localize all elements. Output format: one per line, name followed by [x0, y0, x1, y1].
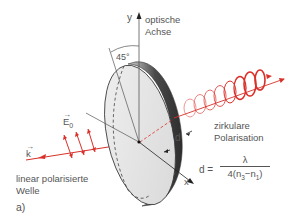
panel-label: a) — [16, 202, 25, 213]
input-label-line1: linear polarisierte — [16, 173, 88, 184]
formula-denominator: 4(n3−n1) — [220, 167, 270, 181]
output-label-line1: zirkulare — [214, 120, 250, 131]
vector-arrow-icon: → — [63, 109, 71, 120]
outgoing-beam — [174, 79, 284, 118]
formula-lhs: d = — [199, 164, 213, 175]
optic-axis-label-line1: optische — [145, 14, 180, 25]
formula-numerator: λ — [220, 154, 270, 167]
waveplate-face — [93, 59, 187, 212]
vector-arrow-icon: → — [26, 141, 34, 152]
wavevector-label: → k — [26, 148, 31, 159]
field-label: → E0 — [63, 116, 73, 131]
axis-x-label: x — [184, 176, 189, 187]
output-label-line2: Polarisation — [214, 132, 264, 143]
angle-label: 45° — [116, 52, 130, 63]
axis-y-label: y — [127, 12, 132, 23]
thickness-label: d — [175, 132, 181, 143]
input-label-line2: Welle — [16, 185, 40, 196]
optic-axis-label-line2: Achse — [145, 26, 171, 37]
formula-fraction: λ 4(n3−n1) — [220, 154, 270, 181]
